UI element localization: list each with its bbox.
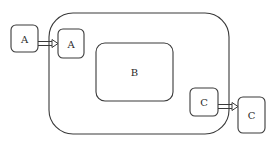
node-b: B [96,43,173,101]
node-inner-c: C [190,88,218,116]
arrow-head-icon [232,103,238,111]
node-b-label: B [131,67,138,78]
node-inner-a-label: A [66,39,75,50]
node-inner-a: A [58,29,84,58]
node-outer-a-label: A [20,34,29,45]
node-outer-c-label: C [248,110,256,121]
node-outer-c: C [238,97,265,133]
node-inner-c-label: C [200,97,208,108]
diagram-canvas: B A A C C [0,0,278,143]
node-outer-a: A [11,25,38,52]
